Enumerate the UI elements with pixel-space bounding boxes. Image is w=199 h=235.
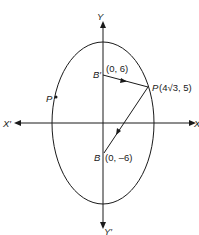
point-p-left-dot [55, 96, 58, 99]
point-p-left-name: P [46, 93, 53, 104]
y-axis-label: Y [97, 11, 104, 22]
segment-p-b [104, 87, 148, 153]
point-b-coords: (0, –6) [105, 152, 132, 163]
y-prime-axis-label: Y′ [104, 226, 113, 235]
ellipse-diagram: Y Y′ X X′ B′ (0, 6) P (4√3, 5) B (0, –6)… [0, 0, 199, 235]
point-p-right-coords: (4√3, 5) [159, 82, 192, 93]
x-prime-axis-label: X′ [2, 118, 12, 129]
point-b-prime-coords: (0, 6) [106, 63, 128, 74]
x-axis-label: X [193, 118, 199, 129]
segment-bprime-p-arrow-icon [120, 78, 127, 83]
y-axis-up-arrow-icon [100, 21, 106, 28]
point-p-right-name: P [152, 82, 159, 93]
point-b-prime-name: B′ [93, 69, 102, 80]
x-axis-left-arrow-icon [14, 120, 21, 126]
point-b-name: B [94, 152, 101, 163]
